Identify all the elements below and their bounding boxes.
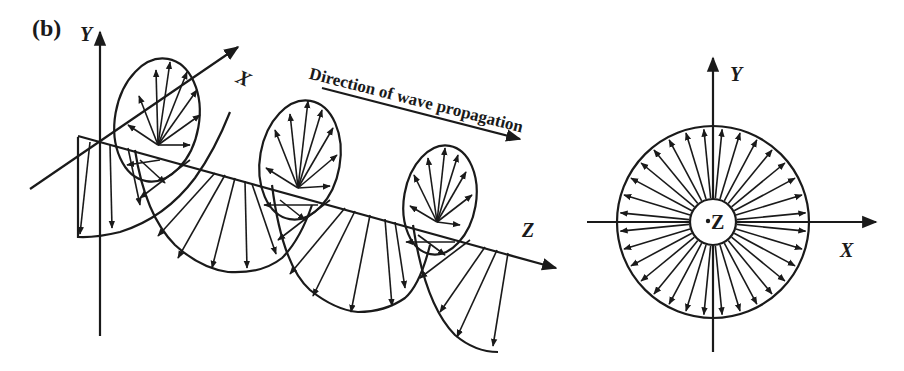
x-axis-label-right: X xyxy=(840,240,853,260)
radial-arrow xyxy=(641,163,694,207)
radial-arrow xyxy=(728,241,772,294)
wave-diagram xyxy=(0,0,904,371)
radial-arrow xyxy=(732,163,785,207)
loop-3-vectors xyxy=(406,148,472,278)
left-helix-diagram xyxy=(30,32,556,352)
radial-arrow xyxy=(737,213,806,220)
y-axis-label-right: Y xyxy=(730,64,742,84)
z-center-dot xyxy=(706,219,710,223)
right-cross-section xyxy=(587,58,876,352)
radial-arrow xyxy=(620,224,689,231)
radial-arrow xyxy=(728,150,772,203)
x-axis-left xyxy=(30,47,238,189)
radial-arrow xyxy=(704,129,711,198)
panel-label: (b) xyxy=(32,16,61,40)
radial-arrow xyxy=(704,246,711,315)
helix-lobe-3 xyxy=(272,185,430,312)
radial-arrow xyxy=(732,237,785,281)
radial-arrow xyxy=(715,129,722,198)
radial-arrow xyxy=(641,237,694,281)
radial-arrow xyxy=(654,241,698,294)
radial-arrow xyxy=(654,150,698,203)
z-axis-label-left: Z xyxy=(522,220,534,240)
radial-arrow xyxy=(620,213,689,220)
z-center-label: Z xyxy=(711,212,724,232)
y-axis-label-left: Y xyxy=(80,24,92,44)
radial-arrow xyxy=(737,224,806,231)
radial-arrow xyxy=(715,246,722,315)
